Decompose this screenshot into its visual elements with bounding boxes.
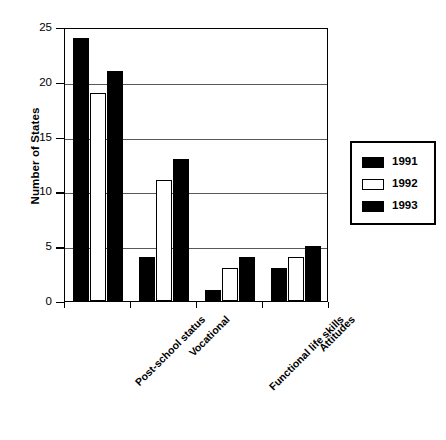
y-axis-tick: [56, 138, 64, 139]
y-axis-tick: [56, 28, 64, 29]
bar-1991-attitudes: [271, 268, 287, 301]
bar-1991-functional-life-skills: [205, 290, 221, 301]
legend-swatch-1993: [362, 201, 384, 212]
y-axis-title: Number of States: [29, 76, 41, 236]
y-axis-tick-label: 5: [12, 241, 52, 253]
legend-item-1991: 1991: [362, 151, 434, 173]
bar-1993-vocational: [173, 159, 189, 301]
x-axis-tick: [196, 302, 197, 308]
y-axis-tick: [56, 247, 64, 248]
bar-1992-vocational: [156, 180, 172, 301]
y-axis-tick: [56, 302, 64, 303]
y-axis-tick-label: 25: [12, 22, 52, 34]
y-axis-tick-label: 15: [12, 132, 52, 144]
x-axis-label-functional-life-skills: Functional life skills: [266, 313, 345, 392]
y-axis-tick-label: 10: [12, 187, 52, 199]
bar-1992-attitudes: [288, 257, 304, 301]
bar-1993-attitudes: [305, 246, 321, 301]
legend-item-1993: 1993: [362, 195, 434, 217]
bar-1992-post-school-status: [90, 93, 106, 301]
legend-label-1991: 1991: [392, 156, 418, 168]
legend-label-1992: 1992: [392, 178, 418, 190]
legend-item-1992: 1992: [362, 173, 434, 195]
legend: 199119921993: [350, 141, 436, 225]
bar-1991-post-school-status: [73, 38, 89, 301]
legend-swatch-1992: [362, 179, 384, 190]
x-axis-tick: [130, 302, 131, 308]
y-axis-tick: [56, 83, 64, 84]
bar-1993-post-school-status: [107, 71, 123, 301]
gridline: [65, 84, 327, 85]
bar-1992-functional-life-skills: [222, 268, 238, 301]
y-axis-tick-label: 0: [12, 296, 52, 308]
bar-chart-figure: Number of States 0510152025 Post-school …: [0, 0, 446, 440]
bar-1991-vocational: [139, 257, 155, 301]
x-axis-tick: [262, 302, 263, 308]
bar-1993-functional-life-skills: [239, 257, 255, 301]
y-axis-tick-label: 20: [12, 77, 52, 89]
legend-label-1993: 1993: [392, 200, 418, 212]
x-axis-tick: [64, 302, 65, 308]
legend-swatch-1991: [362, 157, 384, 168]
x-axis-tick: [328, 302, 329, 308]
plot-area: [64, 28, 328, 302]
y-axis-tick: [56, 192, 64, 193]
